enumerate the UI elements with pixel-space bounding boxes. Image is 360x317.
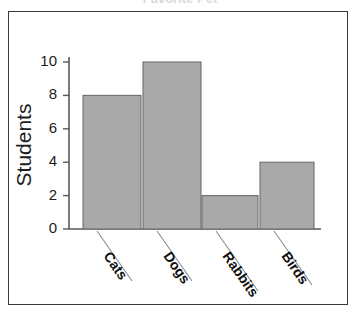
y-tick-label-4: 4: [49, 152, 57, 169]
y-axis-label: Students: [12, 104, 35, 187]
bar-rabbits[interactable]: [202, 196, 258, 229]
y-tick-labels: 0 2 4 6 8 10: [40, 52, 57, 236]
category-labels: Cats Dogs Rabbits Birds: [101, 249, 313, 300]
y-tick-marks: [63, 62, 69, 229]
category-leader-lines: [97, 231, 312, 291]
chart-frame: 0 2 4 6 8 10 Students Cats Dogs Rabbit: [8, 11, 348, 305]
bar-chart: 0 2 4 6 8 10 Students Cats Dogs Rabbit: [9, 12, 349, 306]
category-label-rabbits: Rabbits: [220, 249, 263, 300]
bar-series: [83, 62, 314, 229]
bar-birds[interactable]: [260, 162, 314, 229]
bar-cats[interactable]: [83, 95, 141, 229]
category-label-dogs: Dogs: [161, 249, 194, 287]
y-tick-label-0: 0: [49, 219, 57, 236]
y-tick-label-6: 6: [49, 119, 57, 136]
category-label-cats: Cats: [101, 249, 132, 283]
category-label-birds: Birds: [279, 249, 313, 288]
y-tick-label-2: 2: [49, 186, 57, 203]
y-tick-label-10: 10: [40, 52, 57, 69]
y-tick-label-8: 8: [49, 85, 57, 102]
clipped-chart-title-text: Favorite Pet: [0, 0, 360, 6]
bar-dogs[interactable]: [143, 62, 201, 229]
clipped-chart-title: Favorite Pet: [0, 0, 360, 9]
